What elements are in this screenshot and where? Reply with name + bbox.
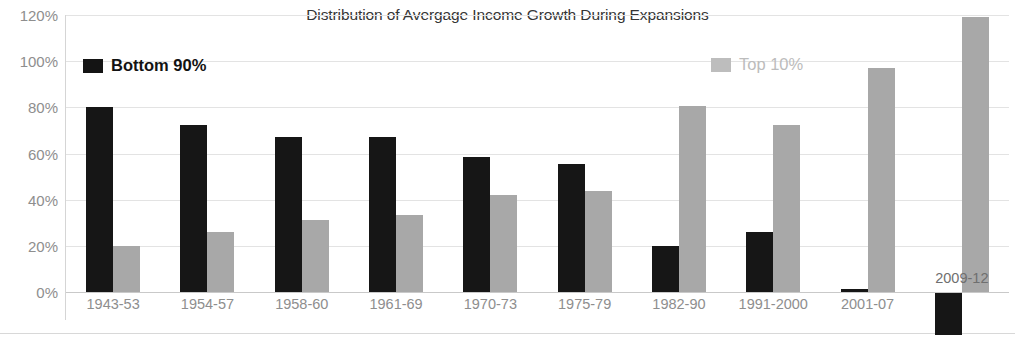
legend-swatch-bottom90-icon <box>83 59 103 73</box>
bar <box>679 106 706 292</box>
legend-label-bottom90: Bottom 90% <box>111 56 206 75</box>
zero-baseline <box>66 292 1009 293</box>
bar <box>180 125 207 292</box>
bar <box>113 246 140 292</box>
bar <box>868 68 895 292</box>
y-axis-tick-label: 0% <box>2 284 58 301</box>
bar <box>746 232 773 292</box>
x-axis-tick-labels: 1943-531954-571958-601961-691970-731975-… <box>66 296 1009 320</box>
x-axis-tick-label: 1943-53 <box>87 296 140 312</box>
x-axis-tick-label: 1958-60 <box>275 296 328 312</box>
bar <box>962 17 989 292</box>
bar-group <box>652 15 706 292</box>
x-axis-tick-label: 2001-07 <box>841 296 894 312</box>
bar <box>207 232 234 292</box>
bar <box>585 191 612 292</box>
legend-label-top10: Top 10% <box>739 55 803 74</box>
y-axis-tick-label: 60% <box>2 145 58 162</box>
x-axis-tick-label: 1954-57 <box>181 296 234 312</box>
bar <box>490 195 517 292</box>
bar <box>652 246 679 292</box>
x-axis-tick-label: 1970-73 <box>464 296 517 312</box>
x-axis-tick-label: 2009-12 <box>935 270 988 286</box>
x-axis-tick-label: 1975-79 <box>558 296 611 312</box>
y-axis-tick-label: 20% <box>2 237 58 254</box>
x-axis-tick-label: 1982-90 <box>652 296 705 312</box>
y-axis-tick-label: 40% <box>2 191 58 208</box>
y-axis-tick-labels: 120%100%80%60%40%20%0% <box>0 0 58 340</box>
bar <box>275 137 302 292</box>
bar-group <box>841 15 895 292</box>
y-axis-tick-label: 120% <box>2 7 58 24</box>
bar-group <box>558 15 612 292</box>
bar-group <box>275 15 329 292</box>
bar-group <box>935 15 989 292</box>
legend-swatch-top10-icon <box>711 58 731 72</box>
bar <box>773 125 800 292</box>
bar-chart: Distribution of Avergage Income Growth D… <box>0 0 1015 340</box>
y-axis-tick-label: 100% <box>2 53 58 70</box>
bar-group <box>369 15 423 292</box>
bar <box>463 157 490 292</box>
bar <box>558 164 585 292</box>
legend-item-bottom90: Bottom 90% <box>83 56 206 75</box>
legend-item-top10: Top 10% <box>711 55 803 74</box>
plot-area <box>66 15 1009 292</box>
x-axis-tick-label: 1991-2000 <box>739 296 808 312</box>
x-axis-tick-label: 1961-69 <box>369 296 422 312</box>
bar-group <box>463 15 517 292</box>
bar <box>302 220 329 292</box>
bar <box>86 107 113 292</box>
bar <box>369 137 396 292</box>
y-axis-tick-label: 80% <box>2 99 58 116</box>
bar <box>396 215 423 292</box>
chart-bottom-border <box>0 333 1015 334</box>
